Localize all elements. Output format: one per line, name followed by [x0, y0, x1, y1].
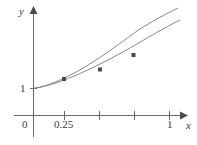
data-point [98, 68, 102, 72]
x-tick-label-025: 0.25 [54, 119, 73, 130]
data-point [132, 53, 136, 57]
x-tick-label-1: 1 [167, 119, 173, 130]
x-axis-label: x [186, 120, 191, 131]
graph-figure: y x 0 0.25 1 1 [0, 0, 197, 145]
data-point [62, 77, 66, 81]
origin-label: 0 [22, 119, 28, 130]
y-axis-arrow-icon [30, 6, 38, 14]
y-axis-label: y [19, 6, 24, 17]
lower-curve [34, 20, 181, 89]
upper-curve [34, 8, 179, 89]
y-tick-label-1: 1 [20, 83, 26, 94]
